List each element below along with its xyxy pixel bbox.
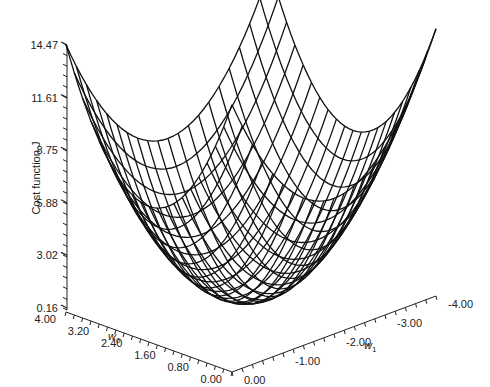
w0-axis-minor-tick	[190, 357, 191, 361]
w1-axis-minor-tick	[283, 353, 284, 357]
w0-axis-minor-tick	[148, 342, 149, 346]
w1-axis-minor-tick	[385, 315, 386, 319]
mesh-line-w0	[224, 51, 428, 223]
w1-axis-minor-tick	[334, 334, 335, 338]
w0-axis-minor-tick	[206, 363, 207, 367]
w1-tick-label: 0.00	[244, 374, 265, 386]
mesh-line-w0	[232, 29, 436, 201]
w0-axis-minor-tick	[165, 348, 166, 352]
j-axis-minor-tick	[63, 107, 67, 109]
j-axis-minor-tick	[63, 64, 67, 66]
wireframe-mesh	[66, 0, 436, 304]
w0-axis-minor-tick	[156, 345, 157, 349]
w1-axis-minor-tick	[324, 338, 325, 342]
j-axis-tick	[61, 305, 67, 308]
w1-tick-label: -4.00	[448, 298, 473, 310]
j-axis-minor-tick	[63, 75, 67, 77]
w1-axis-minor-tick	[436, 296, 437, 300]
w0-tick-label: 0.80	[167, 361, 188, 373]
w0-axis-minor-tick	[73, 315, 74, 319]
w1-axis-minor-tick	[263, 361, 264, 365]
w1-axis-minor-tick	[252, 364, 253, 368]
w0-axis-minor-tick	[82, 318, 83, 322]
w0-axis-minor-tick	[98, 324, 99, 328]
tick-labels: 0.163.025.888.7511.6114.470.000.801.602.…	[30, 39, 473, 386]
j-axis-minor-tick	[63, 276, 67, 278]
mesh-line-w1	[250, 24, 416, 187]
j-axis-minor-tick	[63, 223, 67, 225]
w0-tick-label: 0.00	[201, 373, 222, 385]
w0-axis-minor-tick	[123, 333, 124, 337]
j-axis-minor-tick	[63, 54, 67, 56]
j-axis-minor-tick	[63, 234, 67, 236]
j-axis-minor-tick	[63, 138, 67, 140]
w1-axis-minor-tick	[354, 326, 355, 330]
w1-axis-minor-tick	[303, 345, 304, 349]
w0-axis-minor-tick	[223, 369, 224, 373]
j-axis-minor-tick	[63, 85, 67, 87]
w1-tick-label: -3.00	[397, 317, 422, 329]
w1-tick-label: -1.00	[295, 355, 320, 367]
j-tick-label: 11.61	[31, 92, 58, 104]
w1-axis-minor-tick	[395, 311, 396, 315]
j-axis-minor-tick	[63, 117, 67, 119]
j-axis-tick	[61, 42, 67, 45]
w1-axis-minor-tick	[344, 330, 345, 334]
surface-plot: 0.163.025.888.7511.6114.470.000.801.602.…	[0, 0, 490, 387]
w0-tick-label: 4.00	[35, 313, 56, 325]
j-axis-minor-tick	[63, 170, 67, 172]
j-axis-tick	[61, 95, 67, 98]
j-axis-minor-tick	[63, 287, 67, 289]
j-axis-minor-tick	[63, 128, 67, 130]
j-tick-label: 14.47	[30, 39, 58, 51]
w1-axis-minor-tick	[426, 300, 427, 304]
w0-axis-minor-tick	[198, 360, 199, 364]
w1-axis-minor-tick	[242, 368, 243, 372]
j-tick-label: 3.02	[37, 249, 58, 261]
w0-axis-minor-tick	[181, 354, 182, 358]
w0-axis-minor-tick	[131, 336, 132, 340]
w1-axis-minor-tick	[375, 319, 376, 323]
w1-axis-minor-tick	[405, 307, 406, 311]
w1-axis-minor-tick	[314, 342, 315, 346]
w1-axis-minor-tick	[416, 304, 417, 308]
z-axis-title: Cost function J	[30, 142, 42, 215]
w1-axis-minor-tick	[293, 349, 294, 353]
j-axis-minor-tick	[63, 191, 67, 193]
j-axis-minor-tick	[63, 160, 67, 162]
axes	[61, 42, 437, 376]
mesh-line-w1	[260, 0, 426, 161]
w0-tick-label: 1.60	[134, 349, 155, 361]
w0-axis-minor-tick	[214, 366, 215, 370]
j-axis-minor-tick	[63, 266, 67, 268]
j-axis-minor-tick	[63, 297, 67, 299]
w1-axis-minor-tick	[365, 323, 366, 327]
w0-axis-minor-tick	[173, 351, 174, 355]
w0-tick-label: 3.20	[68, 325, 89, 337]
w1-axis-minor-tick	[232, 372, 233, 376]
mesh-line-w1	[270, 0, 436, 132]
w1-axis-minor-tick	[273, 357, 274, 361]
j-axis-minor-tick	[63, 213, 67, 215]
j-axis-minor-tick	[63, 181, 67, 183]
w0-axis-minor-tick	[65, 312, 66, 316]
w1-axis-title: w1	[364, 339, 377, 354]
w0-axis-minor-tick	[90, 321, 91, 325]
w0-axis-minor-tick	[140, 339, 141, 343]
j-axis-minor-tick	[63, 244, 67, 246]
